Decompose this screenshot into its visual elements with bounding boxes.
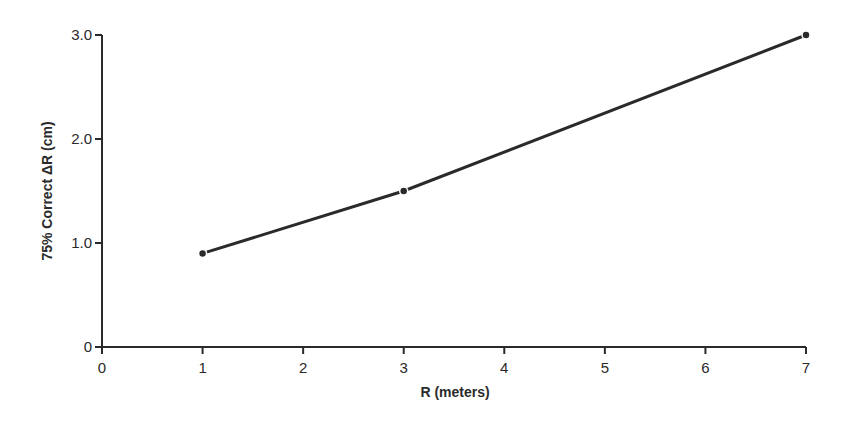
y-tick-label: 3.0 [71, 26, 92, 43]
x-tick-label: 3 [400, 359, 408, 376]
x-axis-title: R (meters) [420, 384, 489, 400]
x-tick-label: 4 [500, 359, 508, 376]
y-tick-label: 1.0 [71, 234, 92, 251]
x-tick-label: 5 [601, 359, 609, 376]
data-series [199, 31, 810, 257]
y-tick-label: 2.0 [71, 130, 92, 147]
line-chart: 01.02.03.0 01234567 75% Correct ΔR (cm) … [0, 0, 850, 426]
y-tick-label: 0 [84, 338, 92, 355]
x-tick-label: 2 [299, 359, 307, 376]
x-tick-label: 6 [701, 359, 709, 376]
x-axis: 01234567 [95, 347, 810, 376]
data-point-marker [199, 249, 207, 257]
x-tick-label: 1 [198, 359, 206, 376]
x-tick-label: 0 [98, 359, 106, 376]
data-point-marker [400, 187, 408, 195]
y-axis-title: 75% Correct ΔR (cm) [39, 121, 55, 260]
series-line [203, 35, 806, 253]
x-tick-label: 7 [802, 359, 810, 376]
data-point-marker [802, 31, 810, 39]
y-axis: 01.02.03.0 [71, 26, 102, 355]
